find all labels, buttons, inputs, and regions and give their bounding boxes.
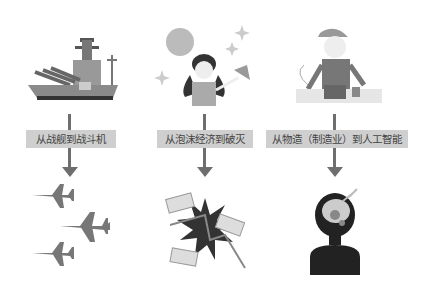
label-bubble-to-collapse: 从泡沫经济到破灭 — [157, 130, 253, 148]
arrow-down-icon — [327, 167, 343, 177]
label-warships-to-fighters: 从战舰到战斗机 — [26, 130, 116, 148]
label-manufacturing-to-ai: 从物造（制造业）到人工智能 — [266, 130, 408, 148]
battleship-icon — [25, 30, 120, 102]
money-crash-icon — [165, 190, 255, 275]
fighter-jets-icon — [30, 182, 120, 272]
arrow-down-icon — [62, 167, 78, 177]
disco-woman-icon — [152, 20, 262, 108]
arrow-down-icon — [197, 167, 213, 177]
factory-worker-icon — [290, 25, 390, 107]
ai-head-icon — [305, 185, 375, 275]
